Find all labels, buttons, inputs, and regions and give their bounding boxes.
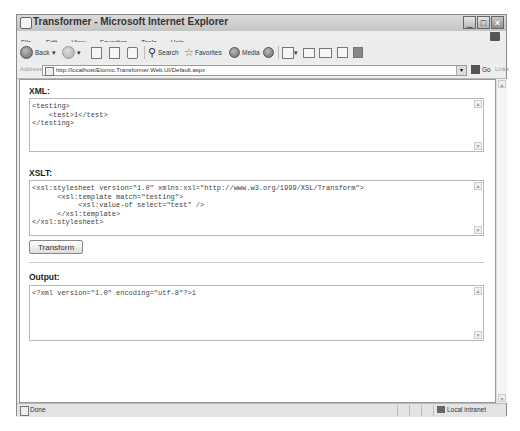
address-label: Address	[20, 66, 42, 72]
scroll-down-icon[interactable]: ▼	[474, 331, 482, 339]
history-icon	[263, 47, 274, 58]
home-button[interactable]	[127, 45, 138, 60]
scroll-up-icon[interactable]: ▲	[474, 100, 482, 108]
title-bar: Transformer - Microsoft Internet Explore…	[17, 15, 506, 32]
print-button[interactable]	[303, 45, 315, 60]
security-zone: Local intranet	[437, 406, 486, 413]
refresh-icon	[109, 47, 120, 59]
xml-textarea[interactable]: <testing> <test>1</test> </testing> ▲ ▼	[29, 98, 484, 152]
scroll-down-icon[interactable]: ▼	[474, 142, 482, 150]
xml-label: XML:	[29, 86, 50, 96]
xslt-textarea[interactable]: <xsl:stylesheet version="1.0" xmlns:xsl=…	[29, 180, 484, 236]
back-button[interactable]: Back▾	[20, 45, 56, 60]
stop-button[interactable]	[91, 45, 102, 60]
scroll-down-icon[interactable]: ▼	[474, 226, 482, 234]
minimize-button[interactable]: _	[463, 16, 476, 29]
xslt-scrollbar[interactable]: ▲ ▼	[474, 181, 483, 235]
output-scrollbar[interactable]: ▲ ▼	[474, 286, 483, 340]
maximize-button[interactable]: □	[477, 16, 490, 29]
transform-button[interactable]: Transform	[29, 240, 83, 254]
history-button[interactable]	[263, 45, 276, 60]
go-button[interactable]: Go	[471, 65, 491, 74]
browser-window: Transformer - Microsoft Internet Explore…	[16, 14, 507, 416]
close-button[interactable]: ×	[491, 16, 504, 29]
xslt-label: XSLT:	[29, 168, 52, 178]
edit-button[interactable]	[319, 45, 332, 60]
page-content: XML: <testing> <test>1</test> </testing>…	[19, 79, 496, 403]
search-button[interactable]: ⚲ Search	[148, 45, 179, 60]
output-textarea[interactable]: <?xml version="1.0" encoding="utf-8"?>1 …	[29, 285, 484, 341]
page-icon	[45, 67, 54, 76]
xml-scrollbar[interactable]: ▲ ▼	[474, 99, 483, 151]
mail-icon	[282, 47, 294, 59]
intranet-icon	[437, 406, 445, 413]
back-arrow-icon	[20, 46, 33, 59]
ie-page-icon	[20, 17, 32, 29]
discuss-button[interactable]	[337, 45, 348, 60]
discuss-icon	[337, 47, 348, 58]
media-icon	[229, 47, 240, 58]
address-bar: Address http://localhost/Etomic.Transfor…	[17, 63, 506, 79]
page-scrollbar[interactable]: ▲ ▼	[496, 79, 507, 403]
messenger-icon	[353, 47, 363, 58]
output-label: Output:	[29, 272, 60, 282]
mail-button[interactable]: ▾	[282, 45, 298, 60]
stop-icon	[91, 47, 102, 59]
status-text: Done	[30, 406, 46, 413]
forward-button[interactable]: ▾	[62, 45, 81, 60]
media-button[interactable]: Media	[229, 45, 260, 60]
go-arrow-icon	[471, 65, 480, 74]
page-done-icon	[20, 406, 29, 416]
refresh-button[interactable]	[109, 45, 120, 60]
scroll-up-icon[interactable]: ▲	[474, 182, 482, 190]
forward-arrow-icon	[62, 46, 75, 59]
scroll-down-icon[interactable]: ▼	[498, 394, 506, 402]
toolbar: Back▾ ▾ ⚲ Search ☆ Favorites Media ▾	[17, 42, 506, 64]
print-icon	[303, 48, 315, 58]
divider	[29, 262, 484, 263]
status-bar: Done Local intranet	[17, 403, 506, 417]
scroll-up-icon[interactable]: ▲	[498, 80, 506, 88]
window-title: Transformer - Microsoft Internet Explore…	[33, 16, 228, 27]
star-icon: ☆	[184, 46, 194, 59]
favorites-button[interactable]: ☆ Favorites	[184, 45, 222, 60]
address-input[interactable]: http://localhost/Etomic.Transformer.Web.…	[42, 65, 467, 76]
messenger-button[interactable]	[353, 45, 363, 60]
links-button[interactable]: Links	[495, 66, 509, 72]
search-icon: ⚲	[148, 46, 156, 59]
windows-logo-icon	[490, 32, 500, 41]
home-icon	[127, 47, 138, 59]
scroll-up-icon[interactable]: ▲	[474, 287, 482, 295]
edit-icon	[319, 48, 332, 58]
address-url: http://localhost/Etomic.Transformer.Web.…	[56, 66, 205, 75]
address-dropdown-button[interactable]: ▾	[456, 66, 466, 75]
